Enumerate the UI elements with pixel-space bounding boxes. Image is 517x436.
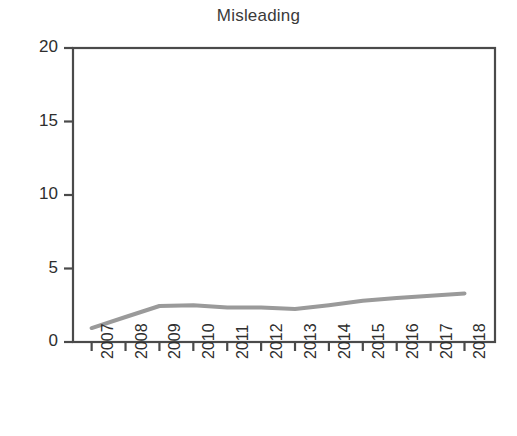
x-tick-label: 2010 xyxy=(200,323,218,359)
x-tick-label: 2014 xyxy=(336,323,354,359)
plot-area xyxy=(0,0,517,436)
y-tick-label: 15 xyxy=(39,111,58,131)
y-tick-label: 10 xyxy=(39,184,58,204)
x-tick-label: 2016 xyxy=(404,323,422,359)
y-tick-label: 20 xyxy=(39,37,58,57)
y-tick-label: 0 xyxy=(49,331,58,351)
axis-frame xyxy=(73,48,495,342)
x-tick-label: 2009 xyxy=(166,323,184,359)
x-tick-label: 2011 xyxy=(234,325,252,359)
x-tick-label: 2017 xyxy=(438,323,456,359)
x-tick-label: 2012 xyxy=(268,323,286,359)
x-tick-label: 2007 xyxy=(99,323,117,359)
x-tick-label: 2013 xyxy=(302,323,320,359)
y-tick-label: 5 xyxy=(49,258,58,278)
x-tick-label: 2015 xyxy=(370,323,388,359)
axis-box xyxy=(73,48,495,342)
x-tick-label: 2018 xyxy=(471,323,489,359)
y-axis-ticks xyxy=(64,48,73,342)
chart-figure: Misleading 05101520 20072008200920102011… xyxy=(0,0,517,436)
x-tick-label: 2008 xyxy=(133,323,151,359)
